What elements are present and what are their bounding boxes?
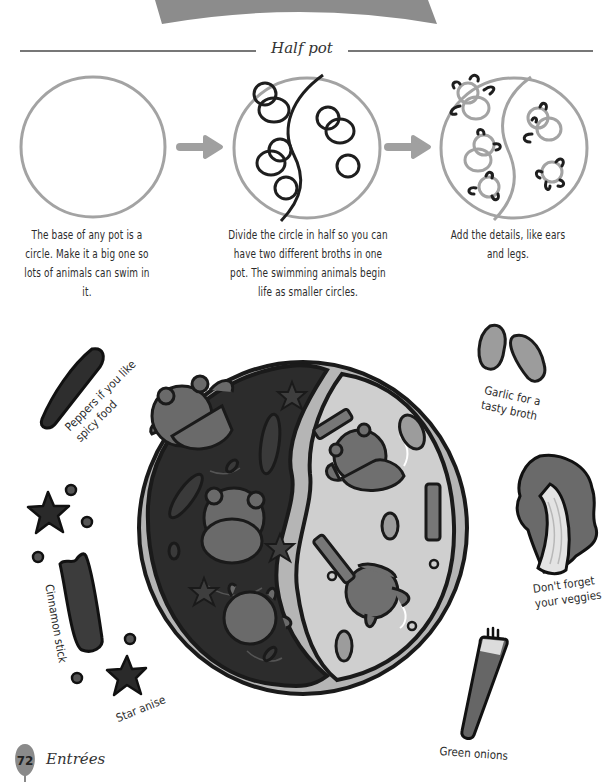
step-1-circle-illustration bbox=[18, 68, 178, 228]
bok-choy-icon bbox=[510, 452, 610, 582]
step-1-text: The base of any pot is a circle. Make it… bbox=[23, 226, 152, 302]
arrow-right-icon bbox=[385, 132, 435, 162]
header-banner bbox=[0, 0, 613, 30]
step-3-detailed-circle-illustration bbox=[436, 68, 596, 228]
bear-icon bbox=[151, 376, 233, 449]
peppercorn-icon bbox=[63, 482, 79, 498]
arrow-right-icon bbox=[177, 132, 227, 162]
green-onions-label: Green onions bbox=[439, 744, 509, 764]
step-2-divided-circle-illustration bbox=[231, 68, 391, 228]
step-3-text: Add the details, like ears and legs. bbox=[444, 226, 573, 264]
peppercorn-icon bbox=[79, 514, 95, 530]
section-title: Half pot bbox=[262, 39, 342, 57]
chapter-title: Entrées bbox=[46, 750, 105, 768]
title-rule-left bbox=[20, 50, 256, 52]
title-rule-right bbox=[348, 50, 593, 52]
peppercorn-icon bbox=[30, 549, 46, 565]
hot-pot-illustration bbox=[132, 356, 472, 706]
page-number: 72 bbox=[13, 747, 37, 776]
step-2-text: Divide the circle in half so you can hav… bbox=[226, 226, 389, 302]
peppercorn-icon bbox=[69, 670, 85, 686]
